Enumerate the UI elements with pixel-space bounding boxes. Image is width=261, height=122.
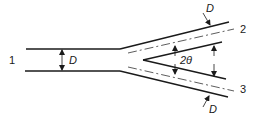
angle-label: 2θ bbox=[179, 54, 192, 66]
lower-branch bbox=[120, 60, 234, 97]
branch-label-1: 1 bbox=[9, 54, 15, 66]
lower-diameter-label: D bbox=[209, 103, 217, 115]
lower-outer-wall bbox=[120, 71, 228, 97]
branch-label-3: 3 bbox=[240, 83, 246, 95]
upper-branch bbox=[120, 22, 234, 60]
lower-centerline bbox=[128, 67, 234, 91]
bifurcation-diagram: 1 2 3 D D D 2θ bbox=[0, 0, 261, 122]
branch-label-2: 2 bbox=[240, 23, 246, 35]
upper-outer-wall bbox=[120, 22, 229, 49]
upper-diameter-label: D bbox=[206, 2, 214, 14]
inlet-diameter-label: D bbox=[69, 54, 77, 66]
upper-diameter-arrow-icon bbox=[203, 13, 210, 25]
upper-centerline bbox=[128, 29, 234, 53]
